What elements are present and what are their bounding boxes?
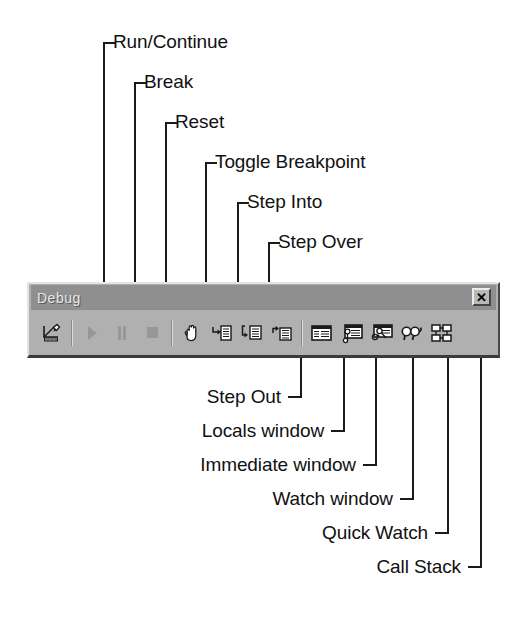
- toolbar-button-reset[interactable]: [137, 318, 167, 348]
- callout-label-reset: Reset: [175, 112, 224, 132]
- leader-elbow-call-stack: [468, 566, 482, 568]
- toolbar-button-toggle-breakpoint[interactable]: [177, 318, 207, 348]
- hand-icon: [182, 323, 202, 344]
- toolbar-button-row: [31, 311, 496, 355]
- step-out-arrow-icon: [271, 323, 293, 343]
- toolbar-button-quick-watch[interactable]: [397, 318, 427, 348]
- step-over-arrow-icon: [241, 323, 263, 343]
- pause-bars-icon: [114, 324, 130, 342]
- callout-label-break: Break: [144, 72, 193, 92]
- toolbar-button-design-mode[interactable]: [37, 318, 67, 348]
- locals-window-icon: [310, 323, 334, 343]
- leader-elbow-locals-window: [331, 430, 345, 432]
- watch-window-icon: [370, 323, 394, 344]
- immediate-window-icon: [340, 323, 364, 344]
- callout-label-locals-window: Locals window: [202, 421, 324, 441]
- callout-label-run-continue: Run/Continue: [113, 32, 228, 52]
- leader-elbow-step-out: [288, 396, 302, 398]
- leader-elbow-quick-watch: [435, 532, 449, 534]
- toolbar-button-step-over[interactable]: [237, 318, 267, 348]
- callout-label-watch-window: Watch window: [272, 489, 393, 509]
- toolbar-button-watch-window[interactable]: [367, 318, 397, 348]
- toolbar-button-break[interactable]: [107, 318, 137, 348]
- callout-label-quick-watch: Quick Watch: [322, 523, 428, 543]
- leader-line-call-stack: [480, 336, 482, 568]
- callout-label-immediate-window: Immediate window: [200, 455, 356, 475]
- diagram-canvas: Run/Continue Break Reset Toggle Breakpoi…: [0, 0, 529, 637]
- callout-label-call-stack: Call Stack: [376, 557, 461, 577]
- toolbar-separator-1: [71, 320, 73, 346]
- leader-elbow-immediate-window: [363, 464, 377, 466]
- toolbar-button-step-out[interactable]: [267, 318, 297, 348]
- callout-label-step-over: Step Over: [278, 232, 363, 252]
- leader-line-watch-window: [412, 336, 414, 500]
- play-triangle-icon: [84, 324, 100, 342]
- close-icon[interactable]: ✕: [472, 288, 491, 306]
- pencil-ruler-icon: [41, 323, 63, 343]
- stop-square-icon: [144, 324, 160, 342]
- leader-elbow-watch-window: [400, 498, 414, 500]
- eyeglasses-icon: [400, 323, 424, 343]
- toolbar-button-call-stack[interactable]: [427, 318, 457, 348]
- callout-label-toggle-breakpoint: Toggle Breakpoint: [215, 152, 365, 172]
- toolbar-title: Debug: [37, 290, 81, 306]
- toolbar-button-immediate-window[interactable]: [337, 318, 367, 348]
- leader-line-quick-watch: [447, 336, 449, 534]
- call-stack-boxes-icon: [430, 323, 454, 344]
- step-into-arrow-icon: [211, 323, 233, 343]
- toolbar-button-step-into[interactable]: [207, 318, 237, 348]
- debug-toolbar[interactable]: Debug ✕: [27, 282, 500, 358]
- toolbar-separator-3: [301, 320, 303, 346]
- callout-label-step-into: Step Into: [247, 192, 322, 212]
- callout-label-step-out: Step Out: [207, 387, 281, 407]
- toolbar-separator-2: [171, 320, 173, 346]
- toolbar-button-locals-window[interactable]: [307, 318, 337, 348]
- toolbar-titlebar[interactable]: Debug ✕: [31, 285, 496, 310]
- toolbar-button-run-continue[interactable]: [77, 318, 107, 348]
